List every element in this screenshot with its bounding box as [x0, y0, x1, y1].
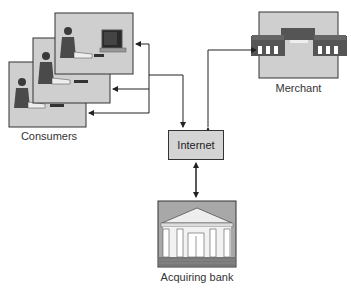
consumers-label: Consumers: [14, 130, 84, 142]
consumer-frame-1: [55, 13, 133, 74]
internet-label: Internet: [177, 139, 214, 151]
acquiring-bank-node: [158, 201, 236, 267]
merchant-node: [251, 12, 347, 78]
merchant-label: Merchant: [259, 82, 338, 94]
edge-trunk-to-internet: [149, 75, 183, 127]
internet-node: Internet: [168, 130, 224, 160]
edge-internet-merchant: [208, 50, 256, 127]
acquiring-bank-label: Acquiring bank: [152, 271, 242, 283]
